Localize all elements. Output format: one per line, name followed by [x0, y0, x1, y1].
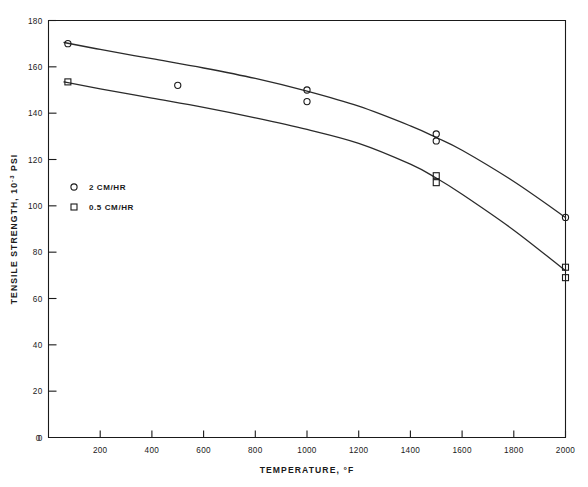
x-axis-title: TEMPERATURE, °F [260, 465, 355, 475]
y-tick-label: 140 [28, 109, 43, 118]
legend-label: 2 CM/HR [89, 183, 126, 192]
x-tick-label: 800 [248, 446, 263, 455]
y-tick-label: 160 [28, 63, 43, 72]
x-tick-label: 1400 [401, 446, 421, 455]
x-tick-label: 600 [196, 446, 211, 455]
x-tick-label: 2000 [556, 446, 576, 455]
x-tick-label: 0 [36, 434, 41, 443]
x-tick-label: 1600 [452, 446, 472, 455]
x-tick-label: 1200 [349, 446, 369, 455]
chart-canvas: 020406080100120140160180 020040060080010… [0, 0, 588, 487]
y-tick-label: 120 [28, 156, 43, 165]
y-tick-label: 60 [33, 295, 43, 304]
tensile-strength-chart: 020406080100120140160180 020040060080010… [0, 0, 588, 487]
y-tick-label: 40 [33, 341, 43, 350]
chart-background [0, 0, 588, 487]
x-tick-label: 200 [93, 446, 108, 455]
x-tick-label: 1800 [504, 446, 524, 455]
y-tick-label: 20 [33, 387, 43, 396]
y-tick-label: 100 [28, 202, 43, 211]
y-tick-label: 80 [33, 248, 43, 257]
x-tick-label: 400 [145, 446, 160, 455]
y-tick-label: 180 [28, 17, 43, 26]
legend-label: 0.5 CM/HR [89, 203, 134, 212]
x-tick-label: 1000 [297, 446, 317, 455]
